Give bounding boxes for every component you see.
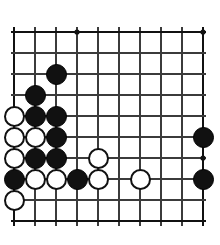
black-stone[interactable] [46, 106, 67, 127]
go-diagram [0, 0, 220, 245]
white-stone[interactable] [25, 127, 46, 148]
stone-layer [0, 0, 220, 245]
black-stone[interactable] [46, 127, 67, 148]
white-stone[interactable] [130, 169, 151, 190]
white-stone[interactable] [46, 169, 67, 190]
white-stone[interactable] [4, 148, 25, 169]
white-stone[interactable] [4, 127, 25, 148]
black-stone[interactable] [4, 169, 25, 190]
black-stone[interactable] [67, 169, 88, 190]
white-stone[interactable] [88, 148, 109, 169]
black-stone[interactable] [25, 148, 46, 169]
white-stone[interactable] [88, 169, 109, 190]
black-stone[interactable] [193, 169, 214, 190]
black-stone[interactable] [25, 106, 46, 127]
white-stone[interactable] [4, 190, 25, 211]
black-stone[interactable] [25, 85, 46, 106]
black-stone[interactable] [193, 127, 214, 148]
black-stone[interactable] [46, 148, 67, 169]
white-stone[interactable] [25, 169, 46, 190]
black-stone[interactable] [46, 64, 67, 85]
white-stone[interactable] [4, 106, 25, 127]
